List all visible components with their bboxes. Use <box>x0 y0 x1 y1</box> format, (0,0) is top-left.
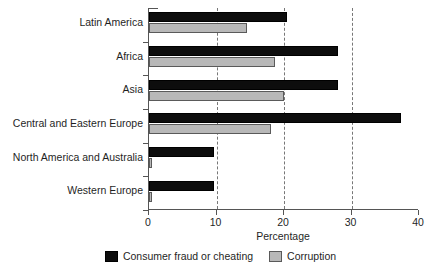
y-axis-label-africa: Africa <box>0 51 143 62</box>
x-tick-label-40: 40 <box>398 216 438 228</box>
legend-item-corruption: Corruption <box>269 250 336 262</box>
bar-western-europe-consumer-fraud-or-cheating <box>149 181 214 191</box>
bar-groups <box>149 8 418 209</box>
x-tick-label-10: 10 <box>196 216 236 228</box>
x-tick-label-0: 0 <box>128 216 168 228</box>
x-tick-30 <box>351 210 352 215</box>
x-axis-title: Percentage <box>148 230 418 242</box>
y-axis-label-western-europe: Western Europe <box>0 185 143 196</box>
axis-corner-stub <box>148 8 158 9</box>
bar-north-america-and-australia-corruption <box>149 158 152 168</box>
legend-label-corruption: Corruption <box>287 250 336 262</box>
x-tick-0 <box>148 210 149 215</box>
y-axis-label-central-and-eastern-europe: Central and Eastern Europe <box>0 118 143 129</box>
legend-item-consumer-fraud-or-cheating: Consumer fraud or cheating <box>105 250 253 262</box>
bar-africa-corruption <box>149 57 275 67</box>
x-tick-10 <box>216 210 217 215</box>
bar-chart: Latin AmericaAfricaAsiaCentral and Easte… <box>0 0 441 274</box>
bar-central-and-eastern-europe-corruption <box>149 124 271 134</box>
legend-swatch-light-icon <box>269 251 282 262</box>
x-tick-40 <box>418 210 419 215</box>
chart-legend: Consumer fraud or cheating Corruption <box>0 250 441 262</box>
bar-latin-america-consumer-fraud-or-cheating <box>149 12 287 22</box>
y-axis-label-asia: Asia <box>0 84 143 95</box>
legend-swatch-dark-icon <box>105 251 118 262</box>
y-axis-label-latin-america: Latin America <box>0 17 143 28</box>
bar-western-europe-corruption <box>149 192 152 202</box>
x-tick-label-20: 20 <box>263 216 303 228</box>
bar-asia-corruption <box>149 91 284 101</box>
bar-central-and-eastern-europe-consumer-fraud-or-cheating <box>149 113 401 123</box>
bar-latin-america-corruption <box>149 23 247 33</box>
x-tick-label-30: 30 <box>331 216 371 228</box>
y-axis-label-north-america-and-australia: North America and Australia <box>0 152 143 163</box>
legend-label-consumer-fraud-or-cheating: Consumer fraud or cheating <box>123 250 253 262</box>
bar-north-america-and-australia-consumer-fraud-or-cheating <box>149 147 214 157</box>
bar-africa-consumer-fraud-or-cheating <box>149 46 338 56</box>
plot-area <box>148 8 418 210</box>
x-tick-20 <box>283 210 284 215</box>
bar-asia-consumer-fraud-or-cheating <box>149 80 338 90</box>
